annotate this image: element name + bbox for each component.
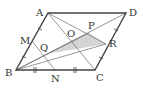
- label-p: P: [88, 20, 95, 31]
- label-a: A: [35, 7, 44, 18]
- geometry-diagram: A D B C M N O P Q R: [0, 0, 143, 90]
- label-c: C: [96, 72, 104, 83]
- label-m: M: [20, 35, 30, 46]
- label-n: N: [51, 73, 60, 84]
- label-d: D: [129, 7, 137, 18]
- label-o: O: [67, 28, 75, 39]
- label-r: R: [109, 38, 117, 49]
- label-q: Q: [40, 42, 48, 53]
- shaded-triangle-qpr: [46, 33, 106, 54]
- label-b: B: [5, 67, 12, 78]
